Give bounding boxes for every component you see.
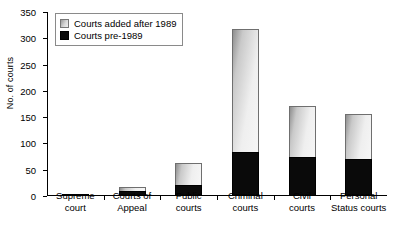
x-label-courts-of-appeal: Courts ofAppeal [104, 190, 161, 213]
legend-label-added-after-1989: Courts added after 1989 [74, 18, 176, 29]
y-tick-label-100: 100 [20, 138, 36, 149]
x-label-line: court [47, 202, 104, 214]
bar-civil-courts [289, 106, 316, 196]
bar-criminal-courts [232, 29, 259, 196]
bar-segment-added-after-1989 [289, 106, 316, 157]
chart-container: No. of courts 050100150200250300350 Supr… [0, 0, 398, 232]
legend-swatch-added-after-1989 [60, 19, 69, 28]
y-tick-label-150: 150 [20, 112, 36, 123]
x-label-personal-status-courts: PersonalStatus courts [330, 190, 387, 213]
y-tick-label-250: 250 [20, 59, 36, 70]
y-tick-label-300: 300 [20, 33, 36, 44]
legend-swatch-pre-1989 [60, 31, 69, 40]
bar-segment-added-after-1989 [175, 163, 202, 185]
x-label-line: courts [274, 202, 331, 214]
legend-label-pre-1989: Courts pre-1989 [74, 30, 143, 41]
x-label-supreme-court: Supremecourt [47, 190, 104, 213]
x-label-line: Public [160, 190, 217, 202]
y-tick-label-50: 50 [25, 164, 36, 175]
chart-legend: Courts added after 1989 Courts pre-1989 [55, 13, 183, 46]
legend-item-courts-pre-1989: Courts pre-1989 [60, 30, 176, 41]
x-label-criminal-courts: Criminalcourts [217, 190, 274, 213]
x-label-line: Personal [330, 190, 387, 202]
x-label-line: Courts of [104, 190, 161, 202]
bar-segment-added-after-1989 [232, 29, 259, 151]
bar-segment-added-after-1989 [345, 114, 372, 159]
x-label-line: Status courts [330, 202, 387, 214]
y-tick-label-200: 200 [20, 85, 36, 96]
x-label-line: Supreme [47, 190, 104, 202]
x-label-line: courts [217, 202, 274, 214]
bar-personal-status-courts [345, 114, 372, 196]
x-label-line: Civil [274, 190, 331, 202]
y-tick-label-0: 0 [31, 191, 36, 202]
x-label-line: Appeal [104, 202, 161, 214]
x-label-civil-courts: Civilcourts [274, 190, 331, 213]
x-label-line: Criminal [217, 190, 274, 202]
y-tick-label-350: 350 [20, 7, 36, 18]
y-axis-title: No. of courts [5, 47, 15, 119]
legend-item-courts-added-after-1989: Courts added after 1989 [60, 18, 176, 29]
x-label-line: courts [160, 202, 217, 214]
x-label-public-courts: Publiccourts [160, 190, 217, 213]
